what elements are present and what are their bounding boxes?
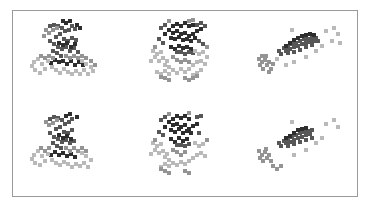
- scatter-marker: [264, 147, 268, 151]
- scatter-marker: [195, 74, 199, 78]
- scatter-marker: [70, 117, 74, 121]
- scatter-marker: [304, 126, 308, 130]
- scatter-marker: [167, 78, 171, 82]
- scatter-marker: [314, 49, 318, 53]
- scatter-marker: [275, 57, 279, 61]
- scatter-marker: [64, 146, 68, 150]
- scatter-marker: [284, 63, 288, 67]
- scatter-marker: [40, 62, 44, 66]
- scatter-marker: [58, 125, 62, 129]
- scatter-marker: [324, 122, 328, 126]
- scatter-marker: [195, 122, 199, 126]
- scatter-marker: [155, 70, 159, 74]
- scatter-marker: [336, 125, 340, 129]
- scatter-marker: [84, 154, 88, 158]
- scatter-marker: [292, 38, 296, 42]
- scatter-marker: [195, 153, 199, 157]
- scatter-marker: [167, 19, 171, 23]
- scatter-panel: [242, 104, 357, 197]
- scatter-marker: [161, 41, 165, 45]
- scatter-marker: [292, 142, 296, 146]
- scatter-marker: [290, 28, 294, 32]
- scatter-marker: [167, 164, 171, 168]
- scatter-marker: [175, 143, 179, 147]
- scatter-marker: [89, 158, 93, 162]
- scatter-marker: [72, 146, 76, 150]
- scatter-marker: [187, 111, 191, 115]
- scatter-marker: [42, 34, 46, 38]
- scatter-marker: [183, 162, 187, 166]
- scatter-marker: [191, 18, 195, 22]
- scatter-marker: [179, 67, 183, 71]
- scatter-marker: [314, 141, 318, 145]
- scatter-marker: [169, 45, 173, 49]
- scatter-marker: [175, 50, 179, 54]
- scatter-marker: [324, 29, 328, 33]
- scatter-marker: [163, 125, 167, 129]
- scatter-marker: [199, 114, 203, 118]
- scatter-marker: [203, 154, 207, 158]
- scatter-marker: [175, 71, 179, 75]
- scatter-marker: [33, 68, 37, 72]
- scatter-marker: [260, 54, 264, 58]
- scatter-marker: [292, 60, 296, 64]
- scatter-marker: [86, 165, 90, 169]
- scatter-marker: [64, 54, 68, 58]
- scatter-panel: [13, 11, 128, 104]
- scatter-plot-figure: [0, 0, 371, 214]
- scatter-marker: [40, 154, 44, 158]
- scatter-marker: [75, 115, 79, 119]
- scatter-marker: [171, 161, 175, 165]
- scatter-marker: [84, 149, 88, 153]
- scatter-marker: [187, 171, 191, 175]
- scatter-marker: [59, 146, 63, 150]
- scatter-marker: [288, 41, 292, 45]
- scatter-marker: [43, 67, 47, 71]
- scatter-marker: [332, 118, 336, 122]
- scatter-marker: [197, 131, 201, 135]
- scatter-marker: [163, 32, 167, 36]
- scatter-marker: [187, 142, 191, 146]
- scatter-panel: [13, 104, 128, 197]
- scatter-marker: [73, 27, 77, 31]
- scatter-marker: [267, 70, 271, 74]
- scatter-marker: [68, 19, 72, 23]
- scatter-marker: [73, 155, 77, 159]
- scatter-marker: [205, 45, 209, 49]
- scatter-marker: [187, 159, 191, 163]
- scatter-marker: [171, 68, 175, 72]
- scatter-marker: [191, 156, 195, 160]
- scatter-marker: [59, 54, 63, 58]
- scatter-marker: [70, 128, 74, 132]
- scatter-marker: [264, 54, 268, 58]
- scatter-marker: [284, 44, 288, 48]
- scatter-marker: [183, 70, 187, 74]
- scatter-marker: [187, 60, 191, 64]
- scatter-marker: [55, 118, 59, 122]
- scatter-marker: [288, 134, 292, 138]
- scatter-marker: [169, 137, 173, 141]
- scatter-marker: [183, 150, 187, 154]
- scatter-marker: [304, 148, 308, 152]
- scatter-marker: [201, 50, 205, 54]
- scatter-marker: [316, 39, 320, 43]
- scatter-marker: [69, 137, 73, 141]
- scatter-marker: [189, 131, 193, 135]
- scatter-marker: [93, 63, 97, 67]
- scatter-marker: [179, 160, 183, 164]
- scatter-marker: [167, 112, 171, 116]
- scatter-marker: [330, 39, 334, 43]
- scatter-marker: [54, 127, 58, 131]
- scatter-marker: [203, 24, 207, 28]
- scatter-marker: [271, 62, 275, 66]
- scatter-marker: [320, 44, 324, 48]
- scatter-marker: [292, 153, 296, 157]
- scatter-marker: [38, 71, 42, 75]
- scatter-marker: [149, 59, 153, 63]
- scatter-marker: [286, 144, 290, 148]
- scatter-marker: [163, 69, 167, 73]
- scatter-marker: [161, 133, 165, 137]
- scatter-marker: [91, 69, 95, 73]
- scatter-marker: [54, 35, 58, 39]
- scatter-marker: [279, 144, 283, 148]
